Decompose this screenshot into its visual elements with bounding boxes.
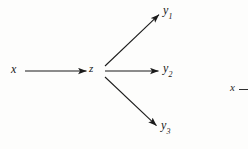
edge-z-to-y1: [105, 15, 159, 66]
next-figure-fragment-label: x: [230, 82, 235, 93]
node-label-x: x: [11, 63, 16, 75]
node-label-y1: y1: [163, 4, 172, 19]
node-label-y2: y2: [163, 62, 172, 77]
edge-z-to-y3: [105, 77, 157, 126]
path-diagram-figure: x z y1 y2 y3 x: [0, 0, 248, 149]
node-label-y2-subscript: 2: [168, 70, 172, 79]
diagram-canvas: [0, 0, 248, 149]
node-label-z: z: [89, 63, 93, 74]
node-label-y1-subscript: 1: [168, 12, 172, 21]
node-label-y3: y3: [161, 119, 170, 134]
node-label-y3-subscript: 3: [166, 127, 170, 136]
next-figure-fragment-rule: [239, 89, 248, 90]
